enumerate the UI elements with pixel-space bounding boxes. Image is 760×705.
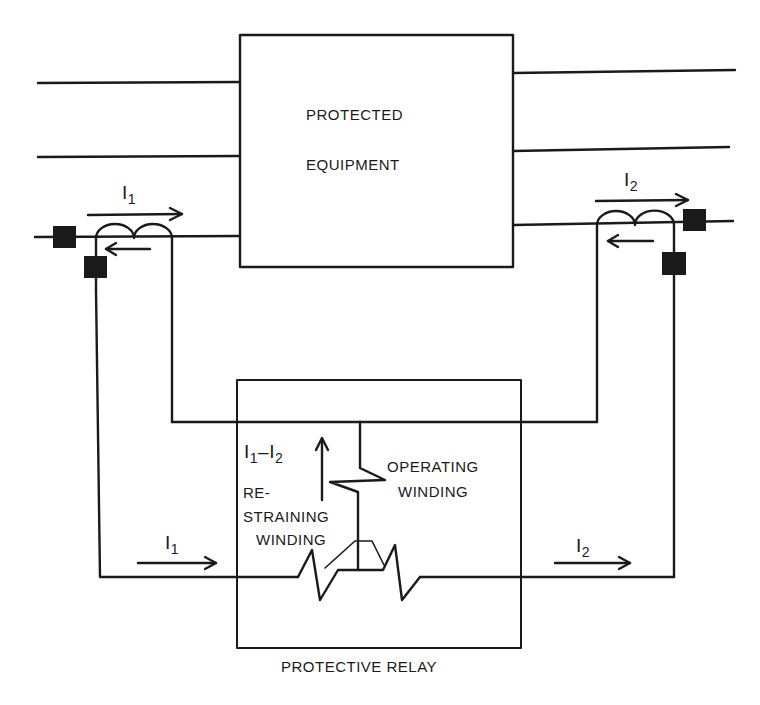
left-loop-arrow [138, 557, 216, 569]
equipment-label-line2: EQUIPMENT [306, 157, 400, 172]
right-phase-line-b [513, 147, 729, 151]
operating-winding-line2: WINDING [398, 484, 468, 499]
right-ct-current-label: I2 [624, 170, 638, 193]
left-phase-line-a [38, 82, 240, 83]
right-current-transformer [596, 194, 706, 577]
left-breaker-icon [53, 226, 76, 248]
restraining-winding-line1: RE- [243, 485, 270, 500]
right-breaker-icon [683, 209, 706, 231]
right-loop-arrow [555, 557, 630, 569]
left-ct-current-label: I1 [122, 183, 136, 206]
differential-current-arrow [316, 438, 328, 500]
left-phase-line-b [38, 156, 240, 157]
protected-equipment-box [240, 35, 513, 267]
equipment-label-line1: PROTECTED [306, 107, 403, 122]
differential-current-label: I1–I2 [244, 442, 283, 465]
right-loop-current-label: I2 [576, 536, 590, 559]
left-loop-current-label: I1 [165, 533, 179, 556]
restraining-leader-lines [325, 541, 384, 568]
left-current-transformer [53, 208, 182, 422]
restraining-winding-line2: STRAINING [243, 509, 329, 524]
right-phase-line-a [513, 70, 735, 73]
left-ct-terminal-icon [84, 256, 107, 278]
restraining-winding-line3: WINDING [256, 532, 326, 547]
operating-winding-coil [330, 422, 385, 570]
operating-winding-line1: OPERATING [387, 459, 479, 474]
protective-relay-caption: PROTECTIVE RELAY [281, 659, 437, 674]
right-ct-terminal-icon [662, 252, 686, 275]
